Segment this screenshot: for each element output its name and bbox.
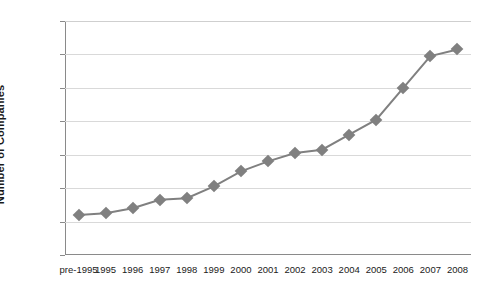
plot-area: 020406080100120140 pre-19951995199619971… <box>65 21 471 255</box>
x-tick-label: 2008 <box>447 264 468 275</box>
x-tick-label: 2001 <box>257 264 278 275</box>
x-tick-label: 1998 <box>176 264 197 275</box>
y-tick-mark <box>60 255 65 256</box>
x-tick-label: pre-1995 <box>60 264 98 275</box>
x-tick-label: 2004 <box>339 264 360 275</box>
x-tick-label: 2003 <box>312 264 333 275</box>
x-tick-label: 1997 <box>149 264 170 275</box>
y-axis-title: Number of Companies <box>0 0 42 289</box>
series-line <box>65 21 471 255</box>
x-tick-label: 1999 <box>203 264 224 275</box>
x-tick-label: 2002 <box>284 264 305 275</box>
series-polyline <box>79 49 458 214</box>
chart-figure: Number of Companies 020406080100120140 p… <box>0 0 489 289</box>
x-tick-label: 2000 <box>230 264 251 275</box>
x-tick-label: 2007 <box>420 264 441 275</box>
x-tick-label: 2005 <box>366 264 387 275</box>
x-tick-label: 1995 <box>95 264 116 275</box>
x-tick-label: 1996 <box>122 264 143 275</box>
x-tick-label: 2006 <box>393 264 414 275</box>
